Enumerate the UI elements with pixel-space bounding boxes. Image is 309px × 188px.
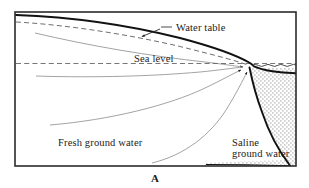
coastal-aquifer-diagram: Water table Sea level Fresh ground water… — [0, 0, 309, 188]
saline-ground-water-label-line2: ground water — [232, 148, 290, 159]
sea-level-label: Sea level — [134, 53, 174, 64]
water-table-label: Water table — [176, 22, 226, 33]
fresh-ground-water-label: Fresh ground water — [58, 137, 143, 148]
figure-root: Water table Sea level Fresh ground water… — [0, 0, 309, 188]
figure-caption: A — [151, 172, 159, 184]
sea-body — [246, 12, 296, 66]
saline-ground-water-label-line1: Saline — [232, 137, 259, 148]
